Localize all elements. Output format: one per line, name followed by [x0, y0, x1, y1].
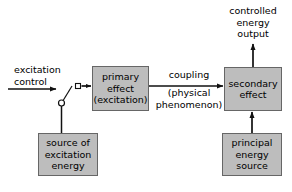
- switch-symbol: [59, 84, 81, 134]
- node-primary-effect-line-3: (excitation): [93, 94, 147, 106]
- label-excitation-control: excitation control: [14, 64, 76, 87]
- node-secondary-effect[interactable]: secondary effect: [224, 67, 282, 111]
- label-physical-phenomenon: (physical phenomenon): [150, 87, 228, 110]
- label-coupling: coupling: [156, 69, 222, 81]
- node-principal-energy-source[interactable]: principal energy source: [222, 133, 282, 176]
- node-principal-energy-source-line-1: principal: [232, 137, 273, 149]
- node-source-excitation-line-3: energy: [51, 160, 84, 172]
- label-controlled-energy-output-line-1: controlled: [218, 5, 288, 17]
- node-primary-effect-line-2: effect: [107, 83, 134, 95]
- node-principal-energy-source-line-2: energy: [235, 149, 268, 161]
- node-secondary-effect-line-2: effect: [239, 89, 266, 101]
- node-primary-effect[interactable]: primary effect (excitation): [92, 66, 149, 111]
- label-physical-phenomenon-line-2: phenomenon): [150, 99, 228, 111]
- switch-square-terminal: [76, 84, 81, 89]
- node-source-excitation-line-1: source of: [46, 137, 90, 149]
- node-principal-energy-source-line-3: source: [236, 160, 268, 172]
- node-source-excitation-line-2: excitation: [45, 149, 92, 161]
- label-excitation-control-line-1: excitation: [14, 64, 76, 76]
- node-secondary-effect-line-1: secondary: [228, 78, 277, 90]
- label-coupling-line-1: coupling: [156, 69, 222, 81]
- label-controlled-energy-output: controlled energy output: [218, 5, 288, 40]
- label-controlled-energy-output-line-3: output: [218, 28, 288, 40]
- node-source-of-excitation-energy[interactable]: source of excitation energy: [38, 133, 98, 176]
- label-controlled-energy-output-line-2: energy: [218, 17, 288, 29]
- label-excitation-control-line-2: control: [14, 76, 76, 88]
- node-primary-effect-line-1: primary: [102, 71, 139, 83]
- energy-conversion-diagram: primary effect (excitation) secondary ef…: [0, 0, 292, 192]
- label-physical-phenomenon-line-1: (physical: [150, 87, 228, 99]
- switch-pivot-circle: [59, 100, 65, 106]
